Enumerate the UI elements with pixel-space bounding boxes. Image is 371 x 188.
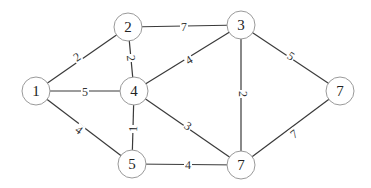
graph-node-n5: 5: [118, 150, 146, 178]
edge-weight-text: 2: [236, 91, 250, 97]
graph-node-n1: 1: [22, 77, 50, 105]
graph-node-n4: 4: [120, 77, 148, 105]
edge-weight-label: 4: [72, 122, 87, 138]
graph-node-n3: 3: [227, 11, 255, 39]
edge-weight-label: 2: [236, 90, 250, 98]
node-label: 5: [128, 156, 136, 172]
edge-weight-text: 7: [181, 20, 187, 34]
node-label: 1: [32, 83, 40, 99]
edge-weight-label: 2: [70, 49, 85, 65]
edge-weight-text: 1: [126, 126, 140, 132]
edge-weight-text: 4: [185, 158, 191, 172]
graph-node-n2: 2: [114, 13, 142, 41]
node-label: 3: [237, 17, 245, 33]
edge-weight-label: 7: [180, 20, 188, 34]
edge-weight-label: 1: [126, 125, 140, 133]
graph-node-n7b: 7: [227, 151, 255, 179]
edge-weight-label: 2: [124, 53, 139, 62]
edge-weight-text: 5: [82, 85, 88, 99]
graph-node-n7r: 7: [326, 77, 354, 105]
edge-weight-label: 7: [287, 126, 302, 142]
nodes-layer: 1234577: [22, 11, 354, 179]
node-label: 2: [124, 19, 132, 35]
edge-weight-label: 5: [81, 85, 89, 99]
node-label: 4: [130, 83, 138, 99]
node-label: 7: [336, 83, 344, 99]
edge-weight-label: 4: [184, 158, 192, 172]
graph-diagram: 272542514347 1234577: [0, 0, 371, 188]
node-label: 7: [237, 157, 245, 173]
